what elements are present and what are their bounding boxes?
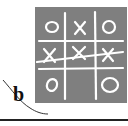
annotation-stroke [0,76,60,118]
x-mark-icon [75,22,85,34]
grid-line-h2 [39,68,123,69]
horizontal-rule [0,119,128,121]
o-mark-icon [102,78,118,92]
figure-label: b [13,84,24,104]
o-mark-icon [46,22,58,32]
o-mark-icon [103,21,115,33]
